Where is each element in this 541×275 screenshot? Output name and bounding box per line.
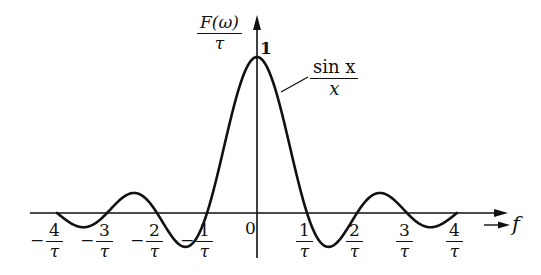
- x-tick-label: 4τ: [46, 222, 63, 260]
- tick-numerator: 1: [296, 222, 313, 239]
- tick-numerator: 2: [146, 222, 163, 239]
- x-tick-label: 4τ: [446, 222, 463, 260]
- tick-minus-sign: −: [80, 230, 94, 250]
- tick-denominator: τ: [47, 243, 62, 260]
- x-tick-label: 2τ: [146, 222, 163, 260]
- peak-label: 1: [260, 38, 272, 58]
- y-axis-label: F(ω) τ: [197, 14, 242, 52]
- curve-label: sin x x: [310, 58, 358, 98]
- tick-denominator: τ: [447, 243, 462, 260]
- x-tick-label: 1τ: [296, 222, 313, 260]
- tick-denominator: τ: [297, 243, 312, 260]
- tick-minus-sign: −: [130, 230, 144, 250]
- curve-label-denominator: x: [326, 80, 342, 98]
- tick-numerator: 3: [96, 222, 113, 239]
- x-tick-label: 3τ: [96, 222, 113, 260]
- y-axis-arrow-icon: [253, 15, 261, 30]
- tick-denominator: τ: [147, 243, 162, 260]
- x-tick-label: 1τ: [196, 222, 213, 260]
- tick-denominator: τ: [397, 243, 412, 260]
- tick-numerator: 2: [346, 222, 363, 239]
- curve-label-leader: [281, 77, 308, 92]
- x-axis-label: f: [512, 212, 520, 236]
- origin-label: 0: [245, 218, 256, 238]
- tick-numerator: 4: [46, 222, 63, 239]
- y-axis-label-denominator: τ: [212, 35, 227, 52]
- tick-denominator: τ: [197, 243, 212, 260]
- curve-label-numerator-text: sin x: [313, 56, 355, 77]
- tick-minus-sign: −: [180, 230, 194, 250]
- curve-label-numerator: sin x: [310, 58, 358, 76]
- tick-numerator: 3: [396, 222, 413, 239]
- f-arrow-icon: [498, 222, 510, 229]
- x-tick-label: 2τ: [346, 222, 363, 260]
- x-axis-arrow-icon: [494, 209, 508, 217]
- tick-denominator: τ: [347, 243, 362, 260]
- tick-denominator: τ: [97, 243, 112, 260]
- x-tick-label: 3τ: [396, 222, 413, 260]
- tick-numerator: 4: [446, 222, 463, 239]
- tick-numerator: 1: [196, 222, 213, 239]
- y-axis-label-numerator: F(ω): [197, 14, 242, 31]
- tick-minus-sign: −: [30, 230, 44, 250]
